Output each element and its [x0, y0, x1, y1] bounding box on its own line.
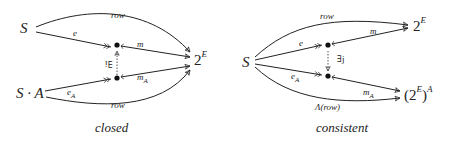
- label-row-top-right: row: [320, 12, 334, 21]
- label-row-top: row: [111, 11, 125, 20]
- label-m: m: [137, 40, 144, 49]
- object-S: S: [20, 21, 28, 36]
- label-m-right: m: [370, 27, 377, 36]
- label-exists-j: ∃j: [337, 55, 344, 64]
- consistent-diagram: [255, 21, 408, 100]
- object-2-power-E-right: 2E: [413, 19, 426, 34]
- object-2-power-E: 2E: [194, 53, 207, 68]
- object-S-right: S: [242, 55, 250, 70]
- label-mA-right: mA: [363, 88, 374, 100]
- object-S-times-A: S · A: [16, 86, 44, 101]
- e-arrow-right: [255, 45, 322, 60]
- label-eA: eA: [67, 88, 75, 100]
- label-lambda-row: Λ(row): [315, 103, 340, 112]
- caption-closed: closed: [95, 121, 128, 134]
- mA-arrow: [121, 66, 190, 77]
- eA-arrow-right: [255, 64, 322, 75]
- image-dot-bottom-right: [325, 73, 330, 78]
- label-e: e: [73, 29, 77, 38]
- label-eA-right: eA: [291, 72, 299, 84]
- image-dot-top: [114, 42, 119, 47]
- m-arrow: [121, 46, 190, 57]
- row-arrow-top-right: [255, 21, 408, 57]
- image-dot-bottom: [114, 75, 119, 80]
- eA-arrow: [45, 79, 111, 91]
- object-2E-power-A: (2E)A: [404, 88, 433, 103]
- label-e-right: e: [299, 39, 303, 48]
- label-exists-i: ∃i: [105, 59, 112, 68]
- label-mA: mA: [137, 73, 148, 85]
- label-row-bottom: row: [111, 101, 125, 110]
- lambda-row-arrow: [255, 67, 400, 101]
- closed-diagram: [36, 14, 190, 104]
- caption-consistent: consistent: [316, 121, 368, 134]
- image-dot-top-right: [325, 42, 330, 47]
- diagram-canvas: [0, 0, 449, 141]
